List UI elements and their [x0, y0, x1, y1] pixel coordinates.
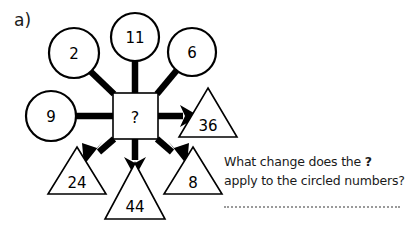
connector-input-6 — [157, 70, 177, 94]
connector-input-2 — [89, 70, 114, 94]
input-value: 11 — [125, 29, 144, 47]
function-machine-diagram: 2 11 6 9 ? 36 24 44 — [0, 0, 406, 236]
output-value: 8 — [188, 174, 198, 192]
arrow-shaft-output-8 — [157, 139, 172, 152]
arrow-shaft-output-24 — [99, 139, 114, 152]
input-value: 9 — [46, 108, 56, 126]
machine-node: ? — [113, 93, 158, 139]
output-value: 36 — [198, 117, 217, 135]
input-value: 2 — [69, 45, 79, 63]
input-node-11: 11 — [111, 13, 159, 61]
question-text: What change does the ? apply to the circ… — [224, 152, 402, 190]
input-node-2: 2 — [49, 28, 99, 78]
question-line-1: What change does the ? — [224, 152, 402, 171]
question-line-2: apply to the circled numbers? — [224, 171, 402, 190]
input-node-9: 9 — [26, 91, 76, 141]
output-node-44: 44 — [105, 163, 165, 219]
output-value: 44 — [125, 198, 144, 216]
question-mark-symbol: ? — [365, 154, 372, 169]
machine-symbol: ? — [131, 108, 140, 127]
output-node-24: 24 — [48, 147, 106, 194]
input-node-6: 6 — [168, 28, 216, 76]
output-value: 24 — [67, 174, 86, 192]
output-node-8: 8 — [164, 147, 222, 194]
input-value: 6 — [187, 44, 197, 62]
answer-write-in-line[interactable] — [224, 206, 400, 208]
worksheet-page: a) 2 11 6 — [0, 0, 406, 236]
question-line-1-text: What change does the — [224, 154, 365, 169]
